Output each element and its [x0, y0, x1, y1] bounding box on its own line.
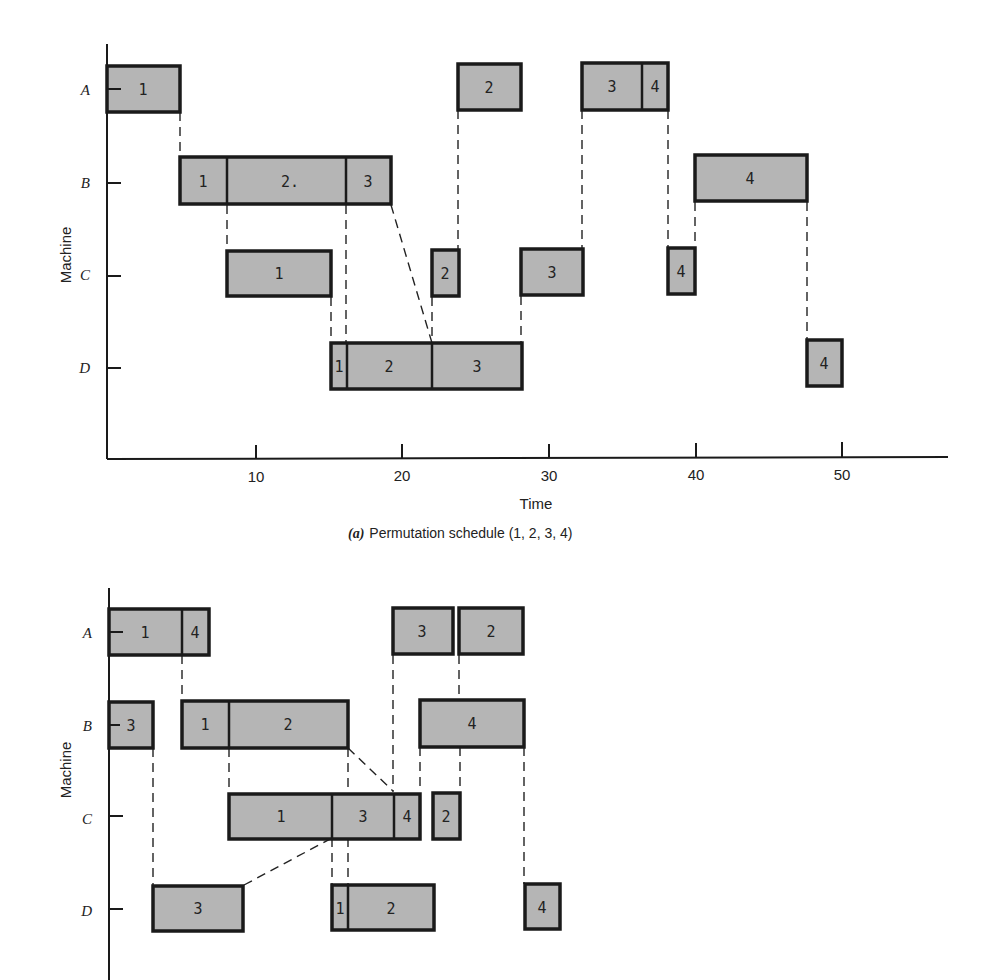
job-label: 1 [200, 716, 209, 734]
job-label: 4 [676, 263, 685, 281]
job-label: 4 [190, 624, 199, 642]
machine-label-c: C [82, 811, 93, 827]
job-label: 4 [402, 808, 411, 826]
y-axis-title: Machine [57, 227, 74, 284]
x-tick-label: 50 [834, 466, 851, 483]
machine-label-a: A [82, 625, 93, 641]
gantt-figure: 10 20 30 40 50 Time (a)Permutation sched… [0, 0, 995, 980]
job-label: 1 [335, 900, 344, 918]
machine-label-b: B [81, 175, 90, 191]
x-tick-label: 40 [688, 466, 705, 483]
chart-a: 10 20 30 40 50 Time (a)Permutation sched… [57, 44, 948, 542]
machine-label-a: A [80, 82, 91, 98]
machine-label-d: D [78, 360, 90, 376]
task-c-1-3-4 [229, 794, 420, 839]
job-label: 4 [819, 355, 828, 373]
job-label: 1 [198, 173, 207, 191]
job-label: 2 [386, 900, 395, 918]
chart-caption: (a)Permutation schedule (1, 2, 3, 4) [348, 525, 572, 542]
connector [244, 838, 332, 885]
job-label: 3 [363, 173, 372, 191]
job-label: 3 [547, 264, 556, 282]
x-tick-label: 30 [541, 467, 558, 484]
job-label: 1 [274, 265, 283, 283]
job-label: 3 [193, 900, 202, 918]
job-label: 4 [537, 899, 546, 917]
y-axis-title: Machine [57, 742, 74, 799]
job-label: 1 [138, 81, 147, 99]
job-label: 2 [384, 358, 393, 376]
job-label: 2 [440, 265, 449, 283]
job-label: 2 [486, 623, 495, 641]
task-d-1-2-3 [331, 343, 522, 389]
job-label: 2 [283, 716, 292, 734]
job-label: 4 [650, 78, 659, 96]
machine-label-d: D [80, 903, 92, 919]
job-label: 1 [276, 808, 285, 826]
job-label: 2 [441, 808, 450, 826]
x-axis-title: Time [520, 495, 553, 512]
job-label: 3 [607, 78, 616, 96]
job-label: 3 [126, 717, 135, 735]
job-label: 3 [417, 623, 426, 641]
machine-label-c: C [80, 267, 91, 283]
x-axis [107, 457, 948, 459]
x-tick-label: 20 [394, 467, 411, 484]
x-tick-label: 10 [248, 468, 265, 485]
connector [348, 748, 393, 791]
job-label: 2. [281, 173, 299, 191]
machine-label-b: B [83, 718, 92, 734]
job-label: 1 [334, 358, 343, 376]
job-label: 4 [467, 715, 476, 733]
job-label: 3 [472, 358, 481, 376]
job-label: 4 [745, 170, 754, 188]
chart-b: Machine A B C D 1 4 3 2 3 1 [57, 588, 560, 980]
job-label: 1 [140, 624, 149, 642]
job-label: 3 [358, 808, 367, 826]
connector [391, 205, 432, 343]
job-label: 2 [484, 79, 493, 97]
